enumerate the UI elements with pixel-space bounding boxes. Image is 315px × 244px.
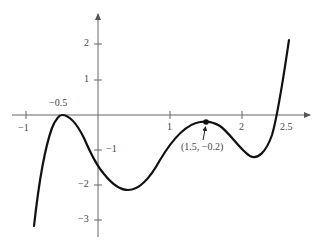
x-label-1: 1 bbox=[167, 122, 172, 132]
marked-point bbox=[203, 119, 209, 125]
x-label-25: 2.5 bbox=[280, 122, 293, 132]
x-label-2: 2 bbox=[239, 122, 244, 132]
y-label-1: 1 bbox=[84, 74, 89, 84]
x-label-neg05: −0.5 bbox=[49, 98, 67, 108]
point-arrow bbox=[203, 127, 206, 140]
y-label-neg3: −3 bbox=[78, 214, 89, 224]
y-label-neg1: −1 bbox=[106, 144, 117, 154]
x-label-neg1: −1 bbox=[18, 123, 29, 133]
function-plot bbox=[0, 0, 315, 244]
function-curve bbox=[34, 40, 289, 226]
point-annotation: (1.5, −0.2) bbox=[181, 142, 223, 152]
y-label-neg2: −2 bbox=[78, 179, 89, 189]
y-label-2: 2 bbox=[84, 38, 89, 48]
